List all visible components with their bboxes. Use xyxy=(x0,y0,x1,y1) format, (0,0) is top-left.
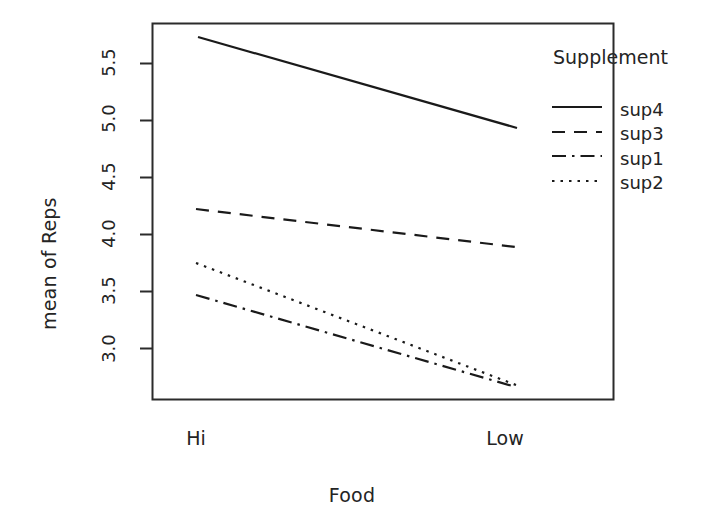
legend-key-lines xyxy=(552,107,602,181)
series-line-sup1 xyxy=(196,295,516,387)
interaction-plot-figure: mean of Reps 5.5 5.0 4.5 4.0 3.5 3.0 Hi … xyxy=(0,0,704,528)
series-line-sup4 xyxy=(198,37,517,128)
y-axis-tick-marks xyxy=(140,64,152,349)
series-line-sup3 xyxy=(196,209,516,247)
plot-canvas xyxy=(0,0,704,528)
data-lines xyxy=(196,37,517,387)
series-line-sup2 xyxy=(196,263,516,385)
